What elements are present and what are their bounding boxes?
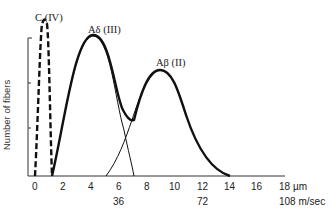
- c-fiber-curve: [35, 20, 52, 177]
- x-tick-18: 18 µm: [279, 181, 307, 192]
- x-tick-12: 12: [197, 181, 208, 192]
- x-tick-0: 0: [32, 181, 38, 192]
- envelope-curve: [52, 35, 230, 176]
- x-tick-14: 14: [224, 181, 235, 192]
- c-fiber-label: C (IV): [35, 12, 63, 23]
- a-delta-label: Aδ (III): [88, 24, 121, 35]
- velocity-tick-36: 36: [113, 196, 124, 207]
- x-tick-10: 10: [169, 181, 180, 192]
- x-tick-6: 6: [116, 181, 122, 192]
- y-axis: [28, 38, 32, 176]
- x-tick-16: 16: [251, 181, 262, 192]
- y-axis-label: Number of fibers: [1, 80, 12, 150]
- x-tick-2: 2: [60, 181, 66, 192]
- velocity-tick-108: 108 m/sec: [279, 196, 325, 207]
- a-beta-label: Aβ (II): [156, 57, 186, 68]
- velocity-tick-72: 72: [197, 196, 208, 207]
- x-tick-8: 8: [144, 181, 150, 192]
- x-tick-4: 4: [88, 181, 94, 192]
